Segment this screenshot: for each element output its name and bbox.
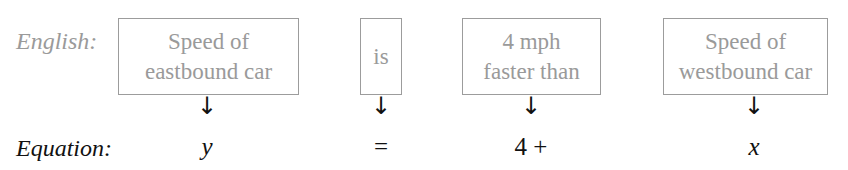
english-label: English: [16,28,97,55]
box-4mph-faster: 4 mph faster than [462,18,601,95]
box-line: 4 mph [463,27,600,57]
equation-equals: = [321,133,441,161]
equation-term-y: y [147,133,267,161]
equation-term-4plus: 4 + [471,133,591,161]
down-arrow-icon: ↓ [361,92,401,120]
down-arrow-icon: ↓ [187,92,227,120]
equation-term-x: x [694,133,814,161]
box-westbound-speed: Speed of westbound car [663,18,828,95]
box-line: faster than [463,57,600,87]
box-line: westbound car [664,57,827,87]
down-arrow-icon: ↓ [734,92,774,120]
box-line: Speed of [664,27,827,57]
box-is: is [360,18,402,95]
box-line: eastbound car [119,57,298,87]
down-arrow-icon: ↓ [511,92,551,120]
equation-label: Equation: [16,135,112,162]
box-eastbound-speed: Speed of eastbound car [118,18,299,95]
box-line: Speed of [119,27,298,57]
box-line: is [361,42,401,72]
